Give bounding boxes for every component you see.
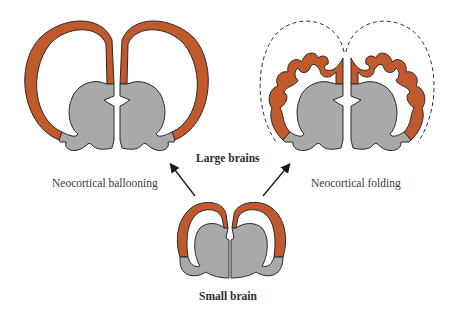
large-brain-folded: [260, 21, 434, 150]
small-brain: [177, 202, 285, 278]
subcortex-right: [120, 82, 175, 151]
subcortex-folded-right: [351, 82, 411, 151]
diagram-canvas: Large brains Neocortical ballooning Neoc…: [0, 0, 460, 312]
arrow-folding: [263, 166, 288, 196]
label-small-brain: Small brain: [199, 290, 257, 302]
arrow-ballooning: [172, 166, 195, 196]
label-neocortical-folding: Neocortical folding: [311, 177, 401, 189]
large-brain-ballooned: [25, 21, 209, 151]
label-large-brains: Large brains: [196, 152, 260, 164]
subcortex-left: [59, 82, 114, 151]
subcortex-folded-left: [283, 82, 343, 151]
label-neocortical-ballooning: Neocortical ballooning: [52, 177, 158, 189]
